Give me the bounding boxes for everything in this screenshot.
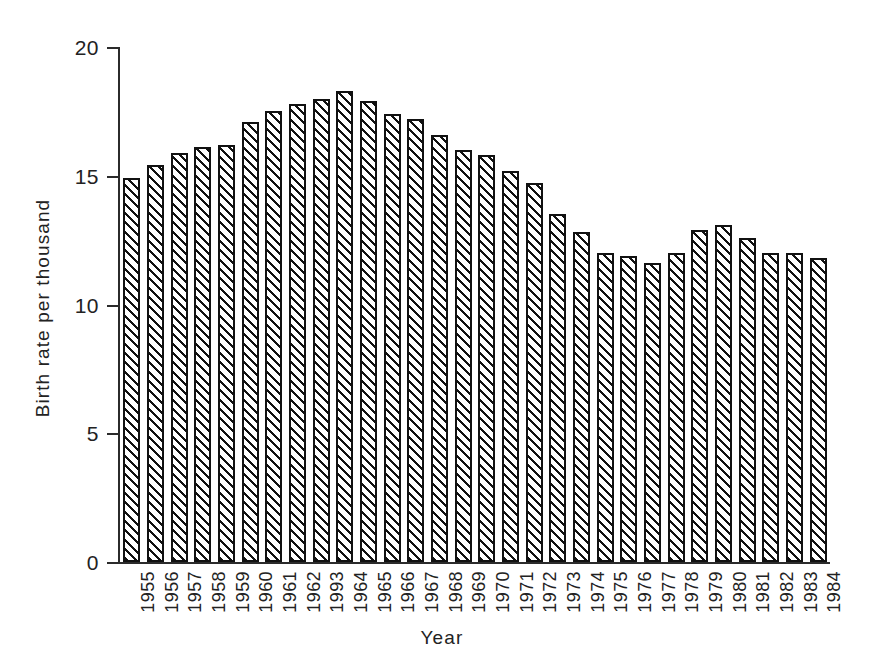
bar-rect — [431, 135, 448, 562]
bar-1984 — [810, 47, 827, 562]
x-tick-label-1974: 1974 — [589, 571, 607, 663]
bar-rect — [194, 147, 211, 562]
y-tick-0: 0 — [107, 562, 119, 564]
bar-1972 — [526, 47, 543, 562]
bar-rect — [620, 256, 637, 562]
x-tick-label-1984: 1984 — [825, 571, 843, 663]
bar-1979 — [691, 47, 708, 562]
bar-1975 — [597, 47, 614, 562]
bar-series — [120, 47, 830, 562]
bar-rect — [762, 253, 779, 562]
bar-rect — [715, 225, 732, 562]
bar-1983 — [786, 47, 803, 562]
x-tick-label-1993: 1993 — [328, 571, 346, 663]
bar-1956 — [147, 47, 164, 562]
x-tick-label-1979: 1979 — [707, 571, 725, 663]
x-tick-label-1955: 1955 — [139, 571, 157, 663]
bar-rect — [810, 258, 827, 562]
bar-rect — [526, 183, 543, 562]
bar-rect — [384, 114, 401, 562]
bar-chart: Birth rate per thousand 05101520 1955195… — [0, 0, 884, 667]
bar-1968 — [431, 47, 448, 562]
bar-1973 — [549, 47, 566, 562]
bar-1993 — [313, 47, 330, 562]
y-tick-label: 20 — [75, 36, 99, 60]
bar-rect — [478, 155, 495, 562]
bar-1959 — [218, 47, 235, 562]
bar-rect — [360, 101, 377, 562]
bar-1964 — [336, 47, 353, 562]
bar-1980 — [715, 47, 732, 562]
bar-rect — [502, 171, 519, 562]
bar-rect — [313, 99, 330, 563]
x-tick-label-1983: 1983 — [802, 571, 820, 663]
bar-rect — [691, 230, 708, 562]
x-tick-label-1982: 1982 — [778, 571, 796, 663]
x-axis-title: Year — [0, 627, 884, 649]
x-tick-label-1981: 1981 — [754, 571, 772, 663]
bar-1958 — [194, 47, 211, 562]
x-tick-label-1960: 1960 — [257, 571, 275, 663]
y-tick-5: 5 — [107, 433, 119, 435]
bar-rect — [218, 145, 235, 562]
bar-rect — [407, 119, 424, 562]
bar-1965 — [360, 47, 377, 562]
x-tick-label-1965: 1965 — [376, 571, 394, 663]
y-tick-20: 20 — [107, 47, 119, 49]
bar-1962 — [289, 47, 306, 562]
x-tick-label-1977: 1977 — [660, 571, 678, 663]
bar-rect — [123, 178, 140, 562]
y-tick-label: 10 — [75, 294, 99, 318]
bar-rect — [597, 253, 614, 562]
bar-rect — [644, 263, 661, 562]
x-tick-label-1971: 1971 — [518, 571, 536, 663]
bar-rect — [289, 104, 306, 562]
x-tick-label-1957: 1957 — [186, 571, 204, 663]
x-tick-label-1956: 1956 — [163, 571, 181, 663]
y-tick-label: 5 — [87, 422, 99, 446]
x-tick-label-1972: 1972 — [541, 571, 559, 663]
x-tick-label-1966: 1966 — [399, 571, 417, 663]
bar-rect — [668, 253, 685, 562]
plot-area: 05101520 1955195619571958195919601961196… — [118, 47, 830, 563]
bar-1966 — [384, 47, 401, 562]
bar-1974 — [573, 47, 590, 562]
bar-rect — [171, 153, 188, 562]
bar-1955 — [123, 47, 140, 562]
x-tick-label-1968: 1968 — [447, 571, 465, 663]
x-tick-label-1978: 1978 — [683, 571, 701, 663]
x-tick-label-1967: 1967 — [423, 571, 441, 663]
bar-rect — [786, 253, 803, 562]
y-tick-15: 15 — [107, 176, 119, 178]
x-tick-label-1970: 1970 — [494, 571, 512, 663]
bar-rect — [265, 111, 282, 562]
bar-rect — [573, 232, 590, 562]
x-tick-label-1976: 1976 — [636, 571, 654, 663]
y-axis-title: Birth rate per thousand — [26, 28, 60, 588]
x-axis-line — [118, 562, 830, 564]
y-tick-label: 15 — [75, 165, 99, 189]
x-tick-label-1961: 1961 — [281, 571, 299, 663]
x-tick-label-1959: 1959 — [234, 571, 252, 663]
x-tick-label-1964: 1964 — [352, 571, 370, 663]
bar-1982 — [762, 47, 779, 562]
bar-1976 — [620, 47, 637, 562]
bar-1969 — [455, 47, 472, 562]
y-tick-10: 10 — [107, 305, 119, 307]
bar-rect — [147, 165, 164, 562]
y-tick-label: 0 — [87, 551, 99, 575]
bar-1967 — [407, 47, 424, 562]
x-tick-label-1962: 1962 — [305, 571, 323, 663]
bar-rect — [549, 214, 566, 562]
x-tick-label-1958: 1958 — [210, 571, 228, 663]
x-tick-label-1973: 1973 — [565, 571, 583, 663]
bar-rect — [455, 150, 472, 562]
bar-1978 — [668, 47, 685, 562]
x-tick-label-1980: 1980 — [731, 571, 749, 663]
bar-rect — [242, 122, 259, 562]
bar-rect — [739, 238, 756, 562]
bar-1961 — [265, 47, 282, 562]
x-tick-label-1969: 1969 — [470, 571, 488, 663]
bar-1960 — [242, 47, 259, 562]
x-tick-label-1975: 1975 — [612, 571, 630, 663]
